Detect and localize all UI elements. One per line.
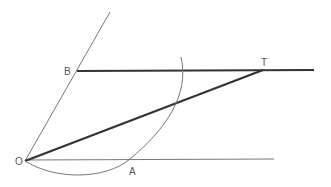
geometry-diagram: O A B T — [0, 0, 331, 187]
label-a: A — [129, 166, 136, 177]
label-t: T — [261, 57, 267, 68]
arc — [25, 57, 183, 175]
label-b: B — [64, 66, 71, 77]
line-bt — [77, 70, 314, 71]
label-o: O — [15, 156, 23, 167]
line-ot — [25, 70, 263, 161]
ray-oa — [25, 159, 274, 160]
ray-ob — [25, 12, 110, 161]
